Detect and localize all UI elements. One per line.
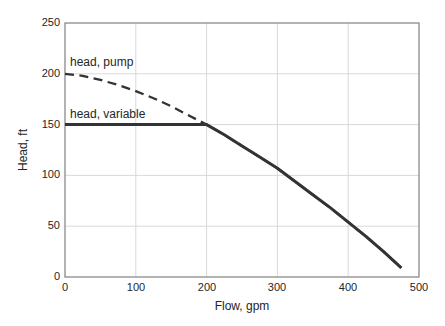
- series-label-head-variable: head, variable: [70, 107, 145, 121]
- x-tick-500: 500: [394, 281, 444, 294]
- x-tick-0: 0: [40, 281, 90, 294]
- y-tick-50: 50: [22, 219, 60, 232]
- pump-curve-chart: 250 200 150 100 50 0 0 100 200 300 400 5…: [0, 0, 445, 326]
- x-tick-100: 100: [111, 281, 161, 294]
- x-tick-300: 300: [252, 281, 302, 294]
- x-axis-title: Flow, gpm: [192, 299, 292, 313]
- x-tick-400: 400: [323, 281, 373, 294]
- y-axis-title: Head, ft: [16, 105, 30, 195]
- y-tick-250: 250: [22, 16, 60, 29]
- plot-area: [0, 0, 445, 326]
- y-tick-200: 200: [22, 67, 60, 80]
- x-tick-200: 200: [182, 281, 232, 294]
- series-label-head-pump: head, pump: [70, 55, 133, 69]
